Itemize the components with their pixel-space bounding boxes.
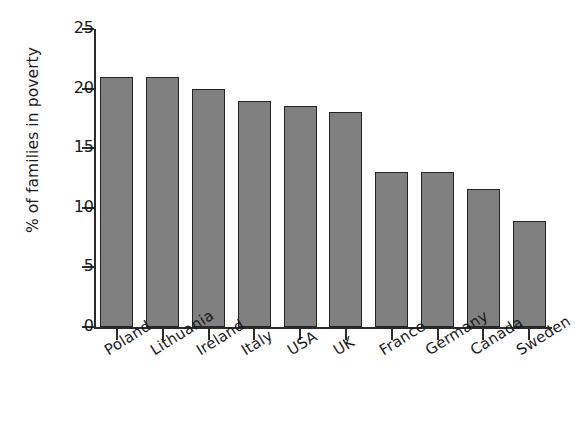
bar-ireland <box>192 89 225 327</box>
bar-uk <box>329 112 362 327</box>
y-tick-label: 15 <box>22 137 94 156</box>
bar-poland <box>100 77 133 327</box>
x-tick-label-uk: UK <box>330 333 358 360</box>
bar-usa <box>284 106 317 327</box>
y-tick-label: 20 <box>22 78 94 97</box>
bar-lithuania <box>146 77 179 327</box>
bar-sweden <box>513 221 546 327</box>
bar-chart: % of families in poverty 0510152025 Pola… <box>0 0 575 448</box>
bar-italy <box>238 101 271 327</box>
bar-france <box>375 172 408 327</box>
y-tick-label: 10 <box>22 197 94 216</box>
bars-layer <box>94 29 552 327</box>
bar-canada <box>467 189 500 327</box>
x-tick-label-usa: USA <box>284 327 320 359</box>
bar-germany <box>421 172 454 327</box>
y-tick-label: 5 <box>22 256 94 275</box>
y-tick-label: 25 <box>22 18 94 37</box>
y-tick-label: 0 <box>22 316 94 335</box>
